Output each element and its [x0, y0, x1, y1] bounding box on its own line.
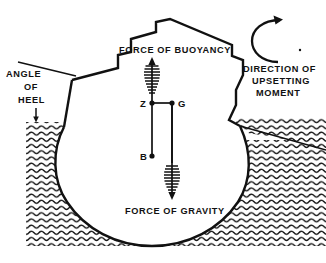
angle-of-heel-line2: OF: [24, 82, 38, 92]
moment-dot-mark: [299, 49, 301, 51]
angle-of-heel-line3: HEEL: [18, 95, 45, 105]
moment-arrowhead: [274, 16, 284, 25]
upsetting-moment-arrow: [252, 16, 301, 63]
point-b-label: B: [140, 151, 147, 162]
upsetting-moment-line2: UPSETTING: [252, 76, 310, 86]
ship-stability-diagram: ANGLE OF HEEL FORCE OF BUOYANCY: [0, 0, 326, 263]
diagram-canvas: ANGLE OF HEEL FORCE OF BUOYANCY: [0, 0, 326, 263]
point-z-dot: [149, 100, 154, 105]
heel-arrowhead: [33, 117, 39, 123]
force-of-gravity-label: FORCE OF GRAVITY: [125, 206, 225, 216]
angle-of-heel-line1: ANGLE: [6, 69, 41, 79]
upsetting-moment-line3: MOMENT: [256, 88, 300, 98]
point-g-label: G: [178, 98, 185, 109]
upsetting-moment-line1: DIRECTION OF: [243, 64, 316, 74]
moment-arc: [252, 20, 280, 62]
force-of-buoyancy-label: FORCE OF BUOYANCY: [119, 45, 231, 55]
point-b-dot: [149, 153, 154, 158]
point-z-label: Z: [140, 98, 146, 109]
